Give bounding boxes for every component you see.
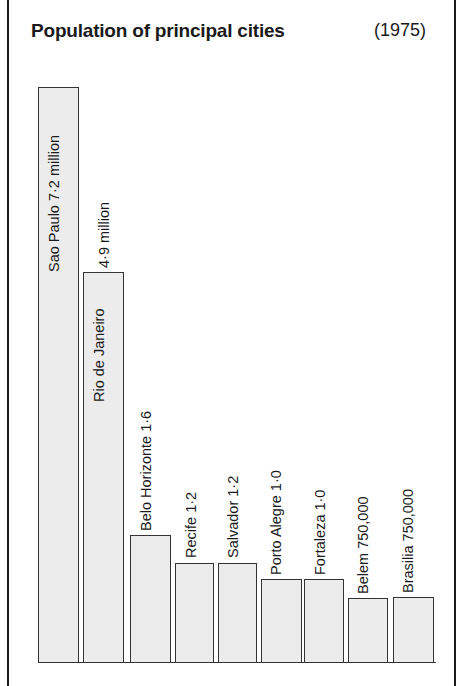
bar [218, 563, 257, 663]
bar-label: Salvador 1·2 [225, 476, 241, 558]
baseline [38, 662, 436, 663]
chart-title: Population of principal cities [31, 20, 285, 42]
bar-label: 4·9 million [96, 202, 112, 268]
bar-label: Recife 1·2 [183, 492, 199, 558]
bar-label: Porto Alegre 1·0 [268, 470, 284, 575]
bar [348, 598, 388, 663]
bar-label: Sao Paulo 7·2 million [46, 135, 62, 272]
bar-label: Belem 750,000 [355, 496, 371, 594]
bar-label: Brasilia 750,000 [400, 489, 416, 593]
bar [393, 597, 434, 663]
bar-label: Fortaleza 1·0 [312, 490, 328, 575]
bar-label: Belo Horizonte 1·6 [138, 411, 154, 531]
bar [261, 579, 302, 663]
bar [130, 535, 171, 663]
chart-year: (1975) [374, 20, 426, 41]
bar [175, 563, 214, 663]
bar [304, 579, 344, 663]
bar-label: Rio de Janeiro [91, 309, 107, 403]
